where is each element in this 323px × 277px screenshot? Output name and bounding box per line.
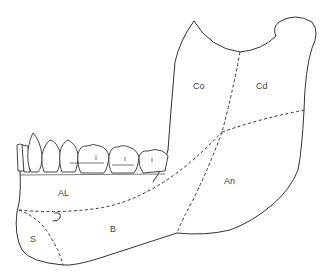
boundary-s [19, 210, 63, 265]
boundary-ramus-an [222, 110, 305, 132]
label-b: B [110, 224, 116, 234]
label-an: An [224, 176, 235, 186]
mandible-diagram: Co Cd An AL B S [0, 0, 323, 277]
mandible-outline [16, 17, 316, 265]
label-cd: Cd [256, 81, 268, 91]
boundary-co-cd [177, 52, 240, 233]
label-s: S [30, 234, 36, 244]
label-co: Co [193, 81, 205, 91]
label-al: AL [58, 188, 69, 198]
teeth [17, 133, 168, 175]
mental-foramen [53, 213, 60, 221]
